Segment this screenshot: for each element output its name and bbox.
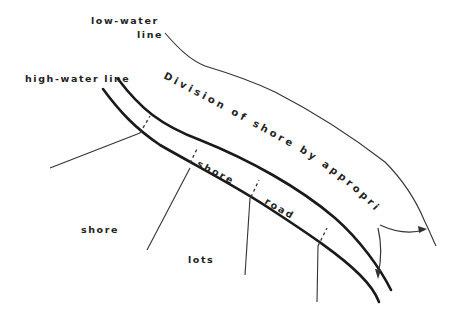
shore-division-diagram: low-water line high-water line shore lot… <box>0 0 459 322</box>
arrow-head-down-icon <box>375 269 381 279</box>
road-divider-dashed-1 <box>140 116 150 133</box>
division-caption: Division of shore by appropriate rules <box>0 0 383 214</box>
lot-boundary-line-1 <box>50 133 140 168</box>
arrow-head-right-icon <box>418 226 427 233</box>
lot-boundary-line-3 <box>245 198 250 275</box>
lot-boundary-line-2 <box>147 168 190 250</box>
high-water-label: high-water line <box>25 73 130 84</box>
low-water-label-line1: low-water <box>91 15 159 26</box>
road-divider-dashed-3 <box>251 180 259 197</box>
low-water-label-line2: line <box>137 29 163 40</box>
road-label-shore: shore <box>195 158 237 187</box>
division-caption-path: Division of shore by appropriate rules <box>0 0 383 214</box>
low-water-line <box>165 33 436 246</box>
road-divider-dashed-2 <box>190 147 198 163</box>
lot-boundary-line-4 <box>317 246 318 302</box>
lots-region-label: lots <box>188 254 214 265</box>
road-label-shore-path: shore <box>195 158 237 187</box>
arrow-to-low-water <box>380 225 424 232</box>
shore-region-label: shore <box>81 224 119 235</box>
